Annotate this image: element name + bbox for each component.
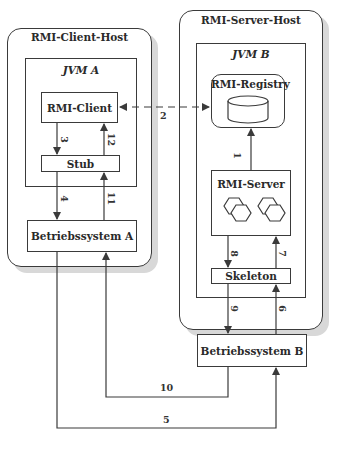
rmi-server-title: RMI-Server bbox=[217, 178, 285, 190]
step-label-10: 10 bbox=[160, 382, 173, 393]
step-label-1: 1 bbox=[232, 152, 243, 159]
skeleton-box: Skeleton bbox=[211, 268, 291, 284]
step-label-2: 2 bbox=[160, 110, 167, 121]
jvm-a-title: JVM A bbox=[25, 64, 137, 76]
betriebssystem-a-box: Betriebssystem A bbox=[27, 220, 137, 252]
jvm-b-title: JVM B bbox=[196, 48, 306, 60]
rmi-server-host-title: RMI-Server-Host bbox=[179, 14, 323, 26]
rmi-client-host-title: RMI-Client-Host bbox=[7, 31, 152, 43]
stub-box: Stub bbox=[41, 155, 120, 172]
step-label-11: 11 bbox=[106, 192, 117, 205]
step-label-5: 5 bbox=[163, 414, 170, 425]
step-label-7: 7 bbox=[277, 250, 288, 257]
step-label-9: 9 bbox=[229, 305, 240, 312]
step-label-8: 8 bbox=[229, 250, 240, 257]
rmi-server-box: RMI-Server bbox=[211, 170, 291, 236]
step-label-3: 3 bbox=[59, 136, 70, 143]
step-label-6: 6 bbox=[277, 305, 288, 312]
rmi-client-box: RMI-Client bbox=[41, 92, 118, 123]
rmi-registry-title: RMI-Registry bbox=[211, 78, 285, 90]
step-label-12: 12 bbox=[106, 133, 117, 146]
betriebssystem-b-box: Betriebssystem B bbox=[197, 334, 307, 367]
step-label-4: 4 bbox=[59, 195, 70, 202]
